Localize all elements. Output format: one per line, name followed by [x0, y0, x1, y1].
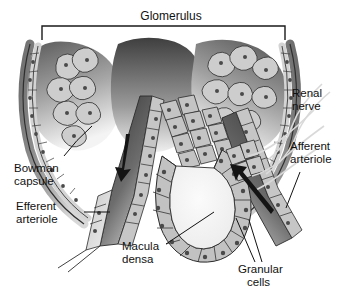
efferent-arteriole-label-line1: Efferent — [16, 200, 57, 212]
juxtaglomerular-apparatus-figure: Glomerulus — [0, 0, 342, 290]
afferent-arteriole-label-line1: Afferent — [290, 140, 331, 152]
bowman-capsule-label-line1: Bowman — [14, 162, 59, 174]
page-title: Glomerulus — [140, 9, 201, 23]
renal-nerve-label-line2: nerve — [292, 100, 321, 112]
granular-cells-label-line1: Granular — [238, 263, 283, 275]
label-bowman-capsule: Bowman capsule — [14, 162, 59, 187]
efferent-arteriole-label-line2: arteriole — [16, 213, 58, 225]
label-efferent-arteriole: Efferent arteriole — [16, 200, 58, 225]
afferent-arteriole-label-line2: arteriole — [290, 153, 332, 165]
label-afferent-arteriole: Afferent arteriole — [290, 140, 332, 165]
macula-densa-label-line1: Macula — [122, 240, 160, 252]
granular-cells-label-line2: cells — [247, 276, 270, 288]
label-renal-nerve: Renal nerve — [292, 87, 322, 112]
bowman-capsule-label-line2: capsule — [14, 175, 54, 187]
macula-densa-label-line2: densa — [122, 253, 154, 265]
renal-nerve-label-line1: Renal — [292, 87, 322, 99]
diagram-canvas: Glomerulus — [0, 0, 342, 290]
